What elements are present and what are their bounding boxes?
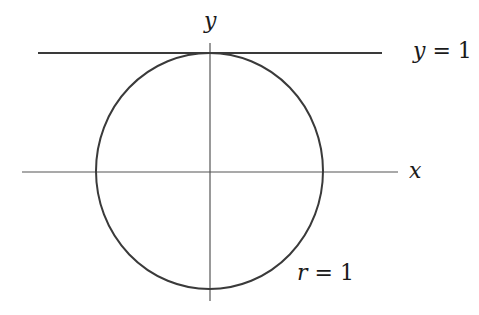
x-axis-label: x <box>409 158 422 183</box>
circle-radius-label-eq: = <box>308 260 340 285</box>
y-axis-label: y <box>203 8 217 33</box>
tangent-line-label-var: y <box>412 38 426 63</box>
tangent-line-label-val: 1 <box>458 38 472 63</box>
circle-radius-label-val: 1 <box>340 260 354 285</box>
tangent-line-label-eq: = <box>425 38 457 63</box>
tangent-line-label: y = 1 <box>412 38 472 63</box>
diagram-canvas: y x y = 1 r = 1 <box>0 0 479 315</box>
circle-radius-label: r = 1 <box>297 260 354 285</box>
